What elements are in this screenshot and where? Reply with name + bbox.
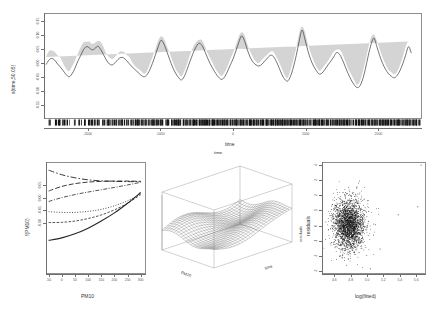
x-tick [114, 274, 115, 277]
top-y-axis: 0.150.100.050.00-0.05-0.10-0.15 [36, 13, 44, 119]
bl-x-axis-ticks: -50050100150200250300 [46, 274, 146, 276]
panel-pm10-effects: f(PM10) PM10 -500501001502002503000.050.… [18, 156, 158, 316]
y-tick-label: 2 [314, 194, 318, 196]
x-tick-label: 0 [232, 132, 234, 136]
x-tick-label: -1000 [156, 132, 165, 136]
x-tick [160, 128, 161, 131]
y-tick-label: 0.00 [38, 194, 42, 201]
pm10-curves-svg [46, 162, 146, 274]
panel-residual-scatter: residuals log(fitted) 4.64.85.05.25.45.6… [300, 156, 448, 316]
x-tick-label: 50 [73, 278, 77, 282]
y-tick [41, 91, 44, 92]
y-tick [319, 180, 322, 181]
y-tick-label: 0.15 [36, 18, 40, 25]
panel-time-smooth: 0.150.100.050.00-0.05-0.10-0.15 -2000-10… [0, 0, 448, 152]
y-tick [41, 63, 44, 64]
pm10-curve-1 [49, 170, 141, 181]
y-tick-label: 0.05 [38, 182, 42, 189]
surface-mesh [162, 199, 292, 249]
y-tick-label: 3 [314, 179, 318, 181]
y-tick [43, 223, 46, 224]
x-tick-label: 0 [61, 278, 63, 282]
y-tick [41, 49, 44, 50]
br-x-axis-ticks: 4.64.85.05.25.45.6 [322, 274, 426, 276]
x-tick-label: 1000 [302, 132, 310, 136]
y-tick [319, 271, 322, 272]
x-tick-label: 5.2 [381, 278, 386, 282]
y-tick [43, 198, 46, 199]
x-tick [101, 274, 102, 277]
x-tick-label: 5.0 [365, 278, 370, 282]
x-tick-label: 5.4 [397, 278, 402, 282]
rug-plot [44, 119, 422, 128]
x-tick [400, 274, 401, 277]
scatter-points [322, 165, 421, 270]
x-tick-label: -2000 [83, 132, 92, 136]
y-tick [319, 210, 322, 211]
y-tick-label: 4 [314, 164, 318, 166]
x-tick-label: 4.8 [348, 278, 353, 282]
y-axis-line [44, 13, 45, 119]
x-tick [49, 274, 50, 277]
y-tick [319, 165, 322, 166]
y-tick-label: 0.05 [36, 46, 40, 53]
y-axis-line [46, 162, 47, 274]
top-y-axis-title: s(time,50.05) [10, 65, 16, 94]
figure-canvas: 0.150.100.050.00-0.05-0.10-0.15 -2000-10… [0, 0, 448, 316]
top-smooth-curve-svg [44, 13, 422, 119]
y-tick-label: -0.05 [36, 73, 40, 81]
y-tick-label: -0.15 [36, 101, 40, 109]
pm10-curve-6 [49, 193, 141, 241]
y-tick-label: 0.10 [36, 32, 40, 39]
x-tick [128, 274, 129, 277]
y-tick [43, 210, 46, 211]
y-tick [41, 21, 44, 22]
x-tick [367, 274, 368, 277]
top-x-axis-title: time [225, 141, 234, 147]
y-tick [319, 226, 322, 227]
y-tick [319, 241, 322, 242]
x-tick [62, 274, 63, 277]
y-tick-label: 0 [314, 225, 318, 227]
x-tick-label: 4.6 [332, 278, 337, 282]
x-tick-label: -50 [46, 278, 51, 282]
residual-points-svg [322, 162, 426, 274]
y-tick-label: -0.10 [36, 87, 40, 95]
perspective-surface-svg [152, 150, 302, 316]
y-tick-label: -0.05 [38, 207, 42, 215]
y-tick-label: -0.10 [38, 219, 42, 227]
x-tick [416, 274, 417, 277]
y-tick [319, 195, 322, 196]
x-tick-label: 100 [85, 278, 91, 282]
y-tick-label: -1 [314, 239, 318, 242]
x-tick [88, 128, 89, 131]
y-axis-line [322, 162, 323, 274]
bm-title: time [214, 150, 222, 155]
x-tick [141, 274, 142, 277]
x-tick-label: 150 [98, 278, 104, 282]
br-y-axis-ticks: 43210-1-2-3 [314, 162, 322, 274]
y-tick [43, 185, 46, 186]
x-tick [88, 274, 89, 277]
x-tick [334, 274, 335, 277]
surface-bounding-box [162, 166, 292, 268]
confidence-band [46, 26, 408, 85]
y-tick [41, 35, 44, 36]
x-tick [378, 128, 379, 131]
x-axis-line [322, 274, 426, 275]
y-tick-label: -2 [314, 254, 318, 257]
y-tick [41, 77, 44, 78]
top-x-axis: -2000-1000010002000 [44, 128, 422, 130]
x-tick-label: 2000 [375, 132, 383, 136]
x-tick-label: 250 [125, 278, 131, 282]
y-tick [41, 105, 44, 106]
pm10-curve-2 [49, 181, 141, 191]
bl-x-axis-title: PM10 [81, 293, 94, 299]
pm10-curve-3 [49, 182, 141, 201]
x-tick [351, 274, 352, 277]
br-x-axis-title: log(fitted) [355, 293, 376, 299]
x-tick-label: 300 [138, 278, 144, 282]
y-tick-label: 0.00 [36, 60, 40, 67]
br-y-axis-title: residuals [305, 216, 311, 236]
bl-y-axis-title: f(PM10) [24, 218, 30, 236]
